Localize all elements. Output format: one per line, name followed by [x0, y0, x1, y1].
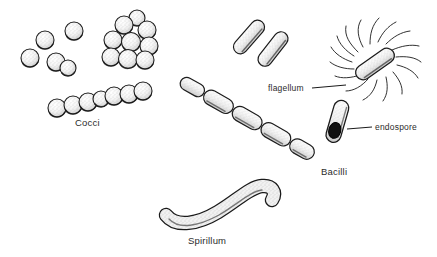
cocci-single-group	[21, 22, 83, 76]
coccus-cell	[36, 31, 54, 49]
coccus-cell	[134, 82, 152, 100]
flagellated-bacillus-group	[330, 18, 421, 101]
coccus-cell	[122, 33, 141, 52]
bacillus-rod-cell	[287, 136, 317, 162]
coccus-cell	[136, 51, 154, 69]
endospore-bacillus-cell	[324, 99, 350, 144]
coccus-cell	[48, 99, 66, 117]
coccus-cell	[119, 50, 138, 69]
bacillus-rod-cell	[178, 75, 207, 99]
bacillus-single-rods-group	[231, 17, 291, 69]
coccus-cell	[60, 60, 76, 76]
endospore-callout-label: endospore	[375, 122, 417, 132]
bacilli-group-label: Bacilli	[321, 166, 347, 177]
bacillus-rod-cell	[231, 17, 268, 56]
bacteria-shapes-figure: Cocci Bacilli Spirillum flagellum endosp…	[0, 0, 437, 257]
cocci-cluster-group	[102, 10, 158, 69]
endospore-leader-line	[347, 127, 372, 129]
bacillus-rod-cell	[230, 104, 265, 133]
bacillus-rod-cell	[201, 87, 236, 116]
coccus-cell	[104, 31, 122, 49]
coccus-cell	[65, 22, 83, 40]
spirillum-group-label: Spirillum	[188, 235, 226, 246]
flagellum-leader-line	[312, 85, 346, 88]
spirillum-group	[166, 186, 274, 226]
coccus-cell	[21, 49, 39, 67]
bacteria-illustration	[0, 0, 437, 257]
coccus-cell	[138, 21, 156, 39]
coccus-cell	[102, 48, 120, 66]
coccus-cell	[115, 16, 133, 34]
cocci-chain-group	[48, 82, 152, 117]
flagellum-callout-label: flagellum	[268, 83, 304, 93]
flagellated-bacillus-cell	[353, 45, 398, 83]
bacillus-rod-cell	[258, 120, 293, 149]
cocci-group-label: Cocci	[75, 117, 100, 128]
endospore-bacillus-group	[324, 99, 350, 144]
